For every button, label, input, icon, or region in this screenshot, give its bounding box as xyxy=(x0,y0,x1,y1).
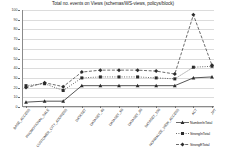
y-tick-label: 60 xyxy=(14,47,18,51)
data-point xyxy=(99,75,102,78)
legend-item-0[interactable]: NumberInTotal xyxy=(176,117,226,128)
y-tick-mark xyxy=(18,49,20,50)
y-tick-mark xyxy=(18,68,20,69)
y-tick-label: 30 xyxy=(14,76,18,80)
y-tick-label: 70 xyxy=(14,37,18,41)
data-point xyxy=(118,75,121,78)
y-tick-mark xyxy=(18,78,20,79)
y-tick-label: 100 xyxy=(12,8,18,12)
legend-item-1[interactable]: StrongInTotal xyxy=(176,128,226,139)
data-point xyxy=(136,68,140,72)
chart-legend: NumberInTotalStrongInTotalStrongETotal xyxy=(176,117,226,150)
y-tick-label: 50 xyxy=(14,57,18,61)
legend-label: StrongETotal xyxy=(190,143,209,147)
chart-container: Total no. events on Views (schemas/WS-vi… xyxy=(0,0,226,162)
legend-label: StrongInTotal xyxy=(190,132,210,136)
data-point xyxy=(191,13,195,17)
x-tick-label: DATASET_60 xyxy=(108,108,124,127)
data-point xyxy=(192,66,195,69)
y-tick-mark xyxy=(18,97,20,98)
y-tick-label: 80 xyxy=(14,27,18,31)
y-tick-label: 10 xyxy=(14,95,18,99)
y-tick-mark xyxy=(18,59,20,60)
series-line-0 xyxy=(26,77,212,102)
data-point xyxy=(98,68,102,72)
y-tick-label: 40 xyxy=(14,66,18,70)
legend-label: NumberInTotal xyxy=(190,121,212,125)
y-tick-label: 20 xyxy=(14,86,18,90)
y-tick-mark xyxy=(18,88,20,89)
y-tick-mark xyxy=(18,29,20,30)
data-point xyxy=(173,72,177,76)
data-point xyxy=(61,85,65,89)
legend-item-2[interactable]: StrongETotal xyxy=(176,139,226,150)
x-tick-label: DATASET xyxy=(74,108,87,123)
x-tick-label: DATASET_100 xyxy=(144,108,161,128)
y-tick-mark xyxy=(18,20,20,21)
x-tick-label: BASE_ACCESS xyxy=(13,108,32,130)
data-point xyxy=(117,68,121,72)
legend-marker-icon xyxy=(176,120,189,125)
data-point xyxy=(62,89,65,92)
series-layer xyxy=(23,10,215,107)
plot-area xyxy=(22,10,214,107)
x-tick-label: ACT xyxy=(191,108,198,116)
data-point xyxy=(136,75,139,78)
y-axis-labels: 0102030405060708090100 xyxy=(0,10,20,107)
data-point xyxy=(155,76,158,79)
y-tick-mark xyxy=(18,10,20,11)
legend-marker-icon xyxy=(176,142,189,147)
x-tick-label: DATASET_80 xyxy=(127,108,143,127)
chart-title: Total no. events on Views (schemas/WS-vi… xyxy=(0,1,226,6)
legend-marker-icon xyxy=(176,131,189,136)
data-point xyxy=(173,77,176,80)
y-tick-mark xyxy=(18,39,20,40)
x-tick-label: DATASET_40 xyxy=(89,108,105,127)
y-tick-label: 90 xyxy=(14,18,18,22)
data-point xyxy=(154,69,158,73)
data-point xyxy=(80,76,83,79)
x-tick-label: JPT xyxy=(210,108,217,115)
